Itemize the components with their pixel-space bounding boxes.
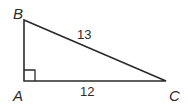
vertex-label-b: B xyxy=(13,5,23,22)
triangle-abc xyxy=(24,20,166,81)
right-angle-marker xyxy=(24,70,35,81)
side-label-bc: 13 xyxy=(77,27,91,42)
vertex-label-a: A xyxy=(12,87,23,104)
triangle-diagram: B A C 13 12 xyxy=(0,0,188,105)
vertex-label-c: C xyxy=(169,87,180,104)
side-label-ac: 12 xyxy=(80,84,94,99)
